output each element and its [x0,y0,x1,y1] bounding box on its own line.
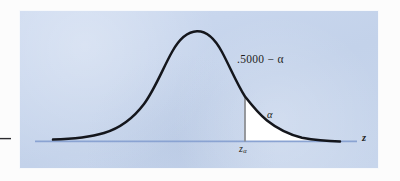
critical-value-label: zα [239,144,247,155]
center-area-label: .5000 − α [237,54,284,66]
normal-distribution-plot [0,0,400,181]
normal-curve [53,31,340,141]
axis-label-z: z [362,133,366,144]
tail-area-label: α [267,110,273,121]
critical-value-subscript: α [243,147,246,154]
figure-container: .5000 − α α zα z [0,0,400,181]
